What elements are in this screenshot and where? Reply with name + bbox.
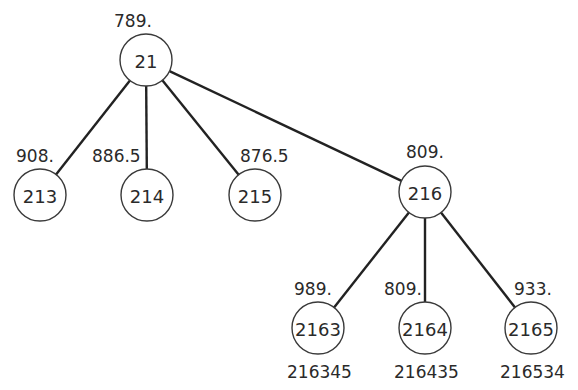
tree-node-2163: 2163: [292, 302, 344, 354]
tree-node-2164: 2164: [399, 302, 451, 354]
edge-216-2165: [441, 213, 515, 308]
node-label: 2163: [295, 319, 341, 340]
tree-diagram: 21213214215216216321642165 789.908.886.5…: [0, 0, 578, 390]
tree-node-215: 215: [229, 169, 281, 221]
node-value-2163: 989.: [294, 279, 332, 299]
node-label: 21: [135, 51, 158, 72]
node-value-214: 886.5: [92, 146, 141, 166]
leaf-sequence-2165: 216534: [500, 362, 565, 382]
node-label: 215: [238, 186, 272, 207]
node-label: 2164: [402, 319, 448, 340]
node-value-2165: 933.: [514, 279, 552, 299]
tree-nodes: 21213214215216216321642165: [14, 34, 557, 354]
edge-21-214: [146, 86, 147, 169]
leaf-sequence-2163: 216345: [287, 362, 352, 382]
node-value-216: 809.: [406, 142, 444, 162]
leaf-sequences: 216345216435216534: [287, 362, 565, 382]
node-value-2164: 809.: [384, 279, 422, 299]
edge-21-215: [162, 80, 238, 175]
tree-node-214: 214: [121, 169, 173, 221]
tree-node-2165: 2165: [505, 302, 557, 354]
node-value-215: 876.5: [240, 146, 289, 166]
leaf-sequence-2164: 216435: [394, 362, 459, 382]
node-values: 789.908.886.5876.5809.989.809.933.: [16, 11, 552, 299]
tree-node-216: 216: [399, 166, 451, 218]
tree-node-21: 21: [120, 34, 172, 86]
node-value-21: 789.: [114, 11, 152, 31]
node-label: 213: [23, 186, 57, 207]
node-label: 214: [130, 186, 164, 207]
node-label: 216: [408, 183, 442, 204]
tree-node-213: 213: [14, 169, 66, 221]
node-label: 2165: [508, 319, 554, 340]
node-value-213: 908.: [16, 146, 54, 166]
